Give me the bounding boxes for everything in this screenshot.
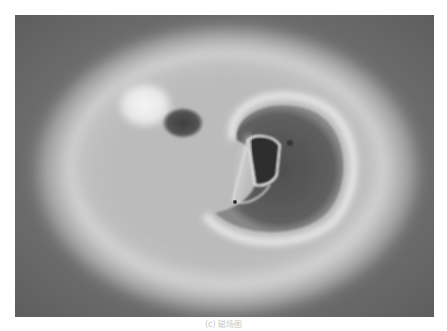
field-plot	[15, 15, 434, 317]
singular-point-right	[287, 140, 293, 146]
dark-lobe	[163, 108, 203, 138]
field-intensity-figure	[15, 15, 434, 317]
singular-point-bottom	[233, 200, 237, 204]
figure-caption: (c) 磁场图	[0, 319, 447, 331]
